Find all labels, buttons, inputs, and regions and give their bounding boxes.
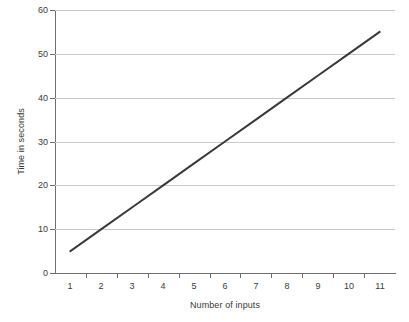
- x-tick-2: [117, 274, 118, 278]
- x-tick-label-2: 2: [89, 281, 113, 292]
- x-tick-label-11: 11: [368, 281, 392, 292]
- x-tick-label-8: 8: [275, 281, 299, 292]
- y-tick-label-40: 40: [2, 93, 48, 103]
- x-axis-title: Number of inputs: [55, 300, 395, 310]
- x-tick-8: [302, 274, 303, 278]
- x-tick-label-10: 10: [337, 281, 361, 292]
- y-tick-label-50: 50: [2, 49, 48, 59]
- y-tick-label-20: 20: [2, 180, 48, 190]
- line-chart: Time in seconds 0102030405060 1234567891…: [0, 0, 409, 322]
- x-tick-label-4: 4: [151, 281, 175, 292]
- x-tick-3: [148, 274, 149, 278]
- series-line-time-in-seconds: [70, 32, 379, 251]
- y-tick-label-0: 0: [2, 268, 48, 278]
- x-tick-9: [333, 274, 334, 278]
- x-tick-label-1: 1: [58, 281, 82, 292]
- x-tick-label-7: 7: [244, 281, 268, 292]
- x-tick-label-3: 3: [120, 281, 144, 292]
- x-tick-6: [240, 274, 241, 278]
- x-tick-1: [86, 274, 87, 278]
- x-tick-7: [271, 274, 272, 278]
- gridline-y-0: [55, 273, 395, 274]
- plot-area: [55, 10, 395, 273]
- y-tick-label-30: 30: [2, 137, 48, 147]
- x-tick-label-6: 6: [213, 281, 237, 292]
- y-axis-tick-labels: 0102030405060: [0, 0, 48, 322]
- x-tick-10: [364, 274, 365, 278]
- x-tick-4: [179, 274, 180, 278]
- y-tick-label-10: 10: [2, 224, 48, 234]
- x-tick-5: [210, 274, 211, 278]
- x-tick-label-9: 9: [306, 281, 330, 292]
- series-line-layer: [55, 10, 395, 273]
- x-tick-label-5: 5: [182, 281, 206, 292]
- y-tick-label-60: 60: [2, 5, 48, 15]
